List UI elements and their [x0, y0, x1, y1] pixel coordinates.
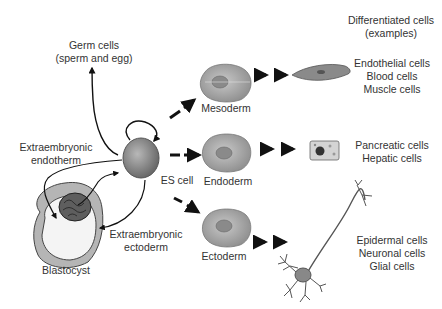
- extraembryonic-endotherm-label: Extraembryonic endotherm: [16, 141, 96, 167]
- ectoderm-cell-icon: [202, 209, 250, 247]
- es-cell-icon: [123, 138, 159, 178]
- arrow-es-to-ectoderm: [174, 198, 198, 212]
- endoderm-label: Endoderm: [200, 175, 256, 188]
- endotherm-line1: Extraembryonic: [16, 141, 96, 154]
- differentiated-cells-heading: Differentiated cells (examples): [340, 14, 442, 40]
- mesoderm-label: Mesoderm: [198, 102, 254, 115]
- outcome-muscle: Muscle cells: [344, 83, 440, 96]
- outcome-blood: Blood cells: [344, 70, 440, 83]
- ectoderm-ext-line1: Extraembryonic: [106, 228, 186, 241]
- hepatic-cell-icon: [310, 141, 339, 160]
- arrow-es-to-mesoderm: [170, 100, 194, 118]
- mesoderm-cell-icon: [200, 64, 251, 102]
- germ-cells-line2: (sperm and egg): [46, 52, 142, 65]
- outcome-hepatic: Hepatic cells: [344, 152, 440, 165]
- germ-cells-line1: Germ cells: [46, 39, 142, 52]
- outcome-neuronal: Neuronal cells: [344, 247, 440, 260]
- outcome-pancreatic: Pancreatic cells: [344, 139, 440, 152]
- mesoderm-outcomes: Endothelial cells Blood cells Muscle cel…: [344, 57, 440, 96]
- outcome-glial: Glial cells: [344, 260, 440, 273]
- endoderm-cell-icon: [202, 134, 250, 172]
- extraembryonic-ectoderm-label: Extraembryonic ectoderm: [106, 228, 186, 254]
- ectoderm-label: Ectoderm: [196, 250, 252, 263]
- ectoderm-ext-line2: ectoderm: [106, 241, 186, 254]
- spindle-cell-icon: [292, 64, 350, 80]
- arrow-to-extraembryonic-ectoderm: [100, 180, 145, 228]
- ectoderm-outcomes: Epidermal cells Neuronal cells Glial cel…: [344, 234, 440, 273]
- endoderm-outcomes: Pancreatic cells Hepatic cells: [344, 139, 440, 165]
- heading-line1: Differentiated cells: [340, 14, 442, 27]
- heading-line2: (examples): [340, 27, 442, 40]
- endotherm-line2: endotherm: [16, 154, 96, 167]
- outcome-epidermal: Epidermal cells: [344, 234, 440, 247]
- outcome-endothelial: Endothelial cells: [344, 57, 440, 70]
- blastocyst-icon: [34, 182, 103, 267]
- es-cell-differentiation-diagram: Differentiated cells (examples) Germ cel…: [0, 0, 442, 309]
- es-cell-label: ES cell: [155, 174, 199, 187]
- germ-cells-label: Germ cells (sperm and egg): [46, 39, 142, 65]
- blastocyst-label: Blastocyst: [36, 264, 96, 277]
